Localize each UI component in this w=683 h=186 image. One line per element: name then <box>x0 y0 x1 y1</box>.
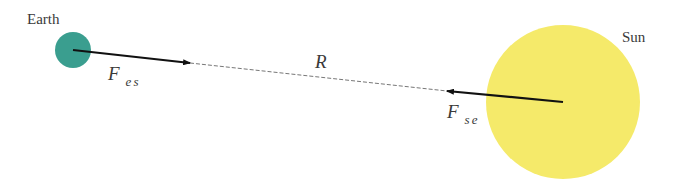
earth-label: Earth <box>27 11 60 27</box>
force-se-label: F se <box>446 101 479 127</box>
force-es-symbol: F <box>107 63 120 84</box>
distance-label: R <box>314 51 327 72</box>
force-es-arrow <box>73 50 190 63</box>
sun-label: Sun <box>622 29 646 45</box>
gravity-diagram: Earth Sun R F es F se <box>0 0 683 186</box>
force-es-subscript: es <box>126 74 141 89</box>
force-se-subscript: se <box>465 112 480 127</box>
force-se-symbol: F <box>446 101 459 122</box>
force-es-label: F es <box>107 63 140 89</box>
